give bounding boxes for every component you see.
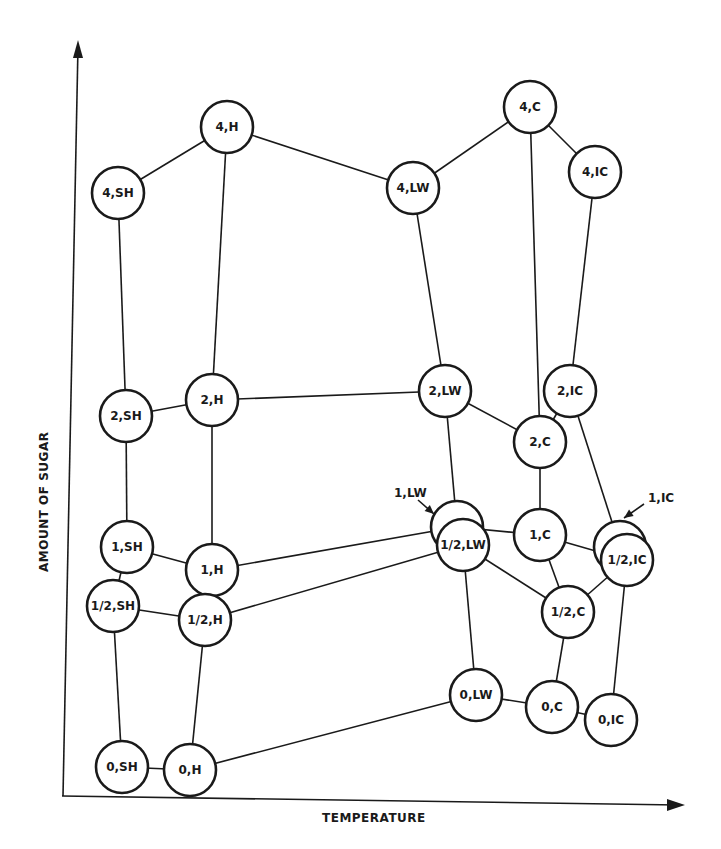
edge-h-h-to-h-lw: [205, 545, 463, 620]
node-4-lw: 4,LW: [387, 162, 439, 214]
node-h-c: 1/2,C: [542, 586, 594, 638]
edge-4-lw-to-2-lw: [413, 188, 445, 391]
node-label: 2,LW: [429, 384, 462, 398]
edge-2-h-to-2-lw: [212, 391, 445, 400]
node-0-lw: 0,LW: [450, 669, 502, 721]
node-2-h: 2,H: [186, 374, 238, 426]
sugar-temperature-diagram: TEMPERATURE AMOUNT OF SUGAR 4,SH4,H4,LW4…: [0, 0, 721, 849]
node-label: 0,LW: [460, 688, 493, 702]
edge-4-h-to-2-h: [212, 127, 227, 400]
node-h-h: 1/2,H: [179, 594, 231, 646]
node-2-ic: 2,IC: [544, 365, 596, 417]
callout-label: 1,LW: [394, 486, 427, 500]
node-label: 1/2,IC: [608, 553, 647, 567]
node-label: 0,C: [541, 700, 563, 714]
node-4-sh: 4,SH: [92, 167, 144, 219]
node-label: 4,SH: [102, 186, 134, 200]
node-1-sh: 1,SH: [101, 521, 153, 573]
node-4-c: 4,C: [504, 81, 556, 133]
node-label: 2,C: [529, 435, 551, 449]
node-label: 2,SH: [110, 409, 142, 423]
x-axis-label: TEMPERATURE: [322, 811, 426, 825]
node-4-h: 4,H: [201, 101, 253, 153]
y-axis: [63, 46, 78, 796]
callout-1-lw: 1,LW: [394, 486, 434, 514]
callout-label: 1,IC: [648, 491, 674, 505]
nodes: 4,SH4,H4,LW4,C4,IC2,SH2,H2,LW2,C2,IC1,SH…: [87, 81, 653, 796]
edge-4-c-to-2-c: [530, 107, 540, 442]
node-1-h: 1,H: [186, 544, 238, 596]
node-label: 4,C: [519, 100, 541, 114]
node-2-c: 2,C: [514, 416, 566, 468]
node-label: 1,SH: [111, 540, 143, 554]
node-label: 2,IC: [557, 384, 583, 398]
node-2-lw: 2,LW: [419, 365, 471, 417]
node-label: 4,H: [216, 120, 239, 134]
node-label: 0,SH: [106, 760, 138, 774]
node-h-sh: 1/2,SH: [87, 580, 139, 632]
node-label: 1/2,H: [187, 613, 223, 627]
y-axis-arrow-icon: [73, 40, 83, 58]
node-2-sh: 2,SH: [100, 390, 152, 442]
node-label: 1/2,SH: [91, 599, 135, 613]
node-4-ic: 4,IC: [569, 146, 621, 198]
node-label: 4,LW: [397, 181, 430, 195]
node-1-c: 1,C: [514, 509, 566, 561]
node-label: 4,IC: [582, 165, 608, 179]
x-axis-arrow-icon: [667, 799, 685, 811]
node-label: 0,H: [179, 763, 202, 777]
edge-4-ic-to-2-ic: [570, 172, 595, 391]
edge-4-sh-to-2-sh: [118, 193, 126, 416]
node-h-lw: 1/2,LW: [437, 519, 489, 571]
y-axis-label: AMOUNT OF SUGAR: [37, 432, 51, 572]
node-label: 2,H: [201, 393, 224, 407]
callout-1-ic: 1,IC: [624, 491, 674, 518]
node-label: 1,C: [529, 528, 551, 542]
node-0-h: 0,H: [164, 744, 216, 796]
node-h-ic: 1/2,IC: [601, 534, 653, 586]
node-0-ic: 0,IC: [585, 694, 637, 746]
node-label: 1,H: [201, 563, 224, 577]
edge-0-h-to-0-lw: [190, 695, 476, 770]
edge-1-h-to-1-lw: [212, 527, 457, 570]
node-0-c: 0,C: [526, 681, 578, 733]
node-label: 1/2,C: [551, 605, 586, 619]
node-label: 1/2,LW: [440, 538, 486, 552]
x-axis: [62, 796, 678, 805]
edge-4-h-to-4-lw: [227, 127, 413, 188]
node-label: 0,IC: [598, 713, 624, 727]
node-0-sh: 0,SH: [96, 741, 148, 793]
callout-arrow-icon: [624, 510, 634, 518]
